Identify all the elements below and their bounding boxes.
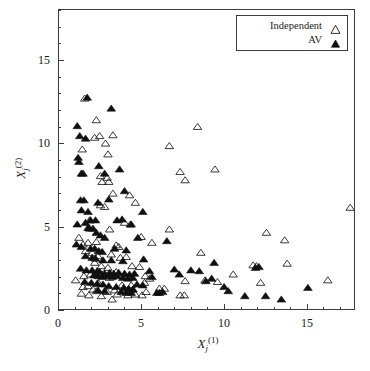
y-axis-title-sub: j — [20, 168, 30, 171]
y-minor-tick — [58, 177, 61, 178]
data-point — [283, 260, 291, 266]
data-point — [138, 208, 147, 214]
y-tick-label: 15 — [28, 54, 50, 66]
data-point — [75, 234, 83, 240]
scatter-markers — [59, 10, 354, 309]
data-point — [145, 268, 154, 274]
filled-triangle-icon — [330, 35, 341, 46]
x-minor-tick — [124, 307, 125, 310]
y-minor-tick — [58, 127, 61, 128]
data-point — [83, 94, 92, 100]
data-point — [148, 239, 156, 245]
x-minor-tick — [323, 307, 324, 310]
data-point — [109, 190, 117, 196]
x-minor-tick — [257, 307, 258, 310]
data-point — [100, 170, 109, 176]
y-minor-tick — [58, 160, 61, 161]
x-minor-tick — [274, 307, 275, 310]
data-point — [78, 146, 86, 152]
data-point — [256, 279, 264, 285]
legend: Independent AV — [236, 15, 348, 51]
y-minor-tick — [58, 77, 61, 78]
data-point — [92, 238, 100, 244]
x-axis-title: Xj(1) — [0, 336, 370, 353]
data-point — [73, 221, 82, 227]
data-point — [346, 204, 354, 210]
y-tick-label: 0 — [28, 304, 50, 316]
y-major-tick — [58, 143, 64, 144]
x-minor-tick — [108, 307, 109, 310]
y-axis-title-sup: (2) — [13, 158, 23, 169]
data-point — [280, 237, 288, 243]
data-point — [176, 292, 184, 298]
plot-area — [58, 9, 355, 310]
y-minor-tick — [58, 260, 61, 261]
x-minor-tick — [91, 307, 92, 310]
y-minor-tick — [58, 277, 61, 278]
y-tick-label: 10 — [28, 137, 50, 149]
x-minor-tick — [75, 307, 76, 310]
data-point — [107, 257, 116, 263]
data-point — [261, 293, 270, 299]
x-major-tick — [141, 304, 142, 310]
data-point — [109, 132, 117, 138]
data-points-layer — [59, 10, 354, 309]
y-major-tick — [58, 227, 64, 228]
data-point — [128, 263, 136, 269]
y-minor-tick — [58, 243, 61, 244]
data-point — [181, 177, 189, 183]
legend-label-av: AV — [308, 35, 322, 46]
data-point — [193, 123, 201, 129]
data-point — [80, 278, 89, 284]
data-point — [197, 249, 205, 255]
x-tick-label: 15 — [301, 317, 313, 329]
x-tick-label: 5 — [138, 317, 144, 329]
data-point — [131, 199, 139, 205]
y-axis-title-var: X — [13, 171, 28, 179]
x-minor-tick — [340, 307, 341, 310]
data-point — [120, 188, 129, 194]
data-point — [170, 266, 179, 272]
y-minor-tick — [58, 110, 61, 111]
data-point — [94, 162, 103, 168]
y-axis-title: Xj(2) — [14, 138, 31, 198]
series-av — [72, 94, 312, 302]
data-point — [181, 278, 189, 284]
data-point — [262, 229, 270, 235]
y-minor-tick — [58, 43, 61, 44]
x-tick-label: 0 — [55, 317, 61, 329]
y-tick-label: 5 — [28, 221, 50, 233]
data-point — [163, 238, 172, 244]
data-point — [195, 268, 204, 274]
x-minor-tick — [158, 307, 159, 310]
data-point — [180, 292, 188, 298]
data-point — [187, 267, 196, 273]
legend-entry-independent: Independent — [243, 19, 341, 33]
data-point — [71, 277, 79, 283]
legend-entry-av: AV — [243, 33, 341, 47]
x-axis-title-sup: (1) — [208, 335, 219, 345]
data-point — [107, 105, 116, 111]
data-point — [304, 284, 313, 290]
data-point — [277, 296, 286, 302]
open-triangle-icon — [330, 21, 341, 32]
data-point — [133, 234, 142, 240]
scatter-plot-figure: 051015 051015 Xj(1) Xj(2) Independent AV — [0, 0, 370, 371]
data-point — [104, 196, 113, 202]
x-tick-label: 10 — [218, 317, 230, 329]
data-point — [115, 166, 124, 172]
data-point — [207, 275, 216, 281]
x-major-tick — [307, 304, 308, 310]
data-point — [165, 143, 173, 149]
data-point — [73, 122, 82, 128]
data-point — [77, 290, 85, 296]
x-minor-tick — [241, 307, 242, 310]
legend-label-independent: Independent — [270, 21, 322, 32]
data-point — [165, 226, 173, 232]
data-point — [101, 140, 109, 146]
y-major-tick — [58, 310, 64, 311]
x-minor-tick — [290, 307, 291, 310]
y-minor-tick — [58, 10, 61, 11]
y-minor-tick — [58, 193, 61, 194]
data-point — [75, 132, 84, 138]
